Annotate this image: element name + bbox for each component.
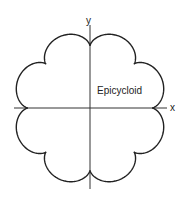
x-axis-label: x (170, 102, 175, 113)
epicycloid-diagram: x y Epicycloid (0, 0, 183, 202)
curve-label: Epicycloid (97, 85, 142, 96)
y-axis-label: y (86, 15, 91, 26)
